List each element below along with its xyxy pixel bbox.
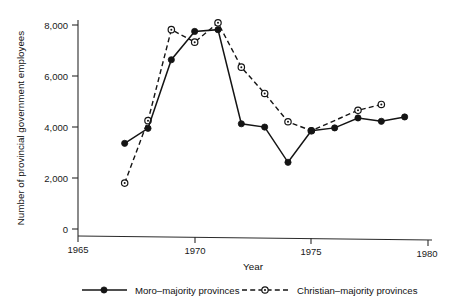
series-christian-majority-provinces [121,20,384,187]
legend-filled-circle-icon [101,287,107,293]
x-tick-label-1975: 1975 [300,246,321,257]
data-point-marker [192,28,198,34]
y-tick-label-0: 0 [63,224,68,235]
y-tick-label-8000: 8,000 [44,20,68,31]
data-point-marker [168,57,174,63]
data-point-marker-center-dot [380,103,382,105]
data-point-marker [238,121,244,127]
x-tick-label-1980: 1980 [416,248,437,259]
chart-legend: Moro–majority provinces Christian–majori… [82,285,418,296]
data-point-marker [402,114,408,120]
data-point-marker [308,128,314,134]
y-tick-label-6000: 6,000 [44,71,68,82]
data-point-marker [262,124,268,130]
data-point-marker-center-dot [357,109,359,111]
legend-label-christian: Christian–majority provinces [297,285,418,296]
chart-figure: 8,000 6,000 4,000 2,000 0 1965 1970 1975… [0,0,450,307]
data-point-marker-center-dot [124,182,126,184]
series-markers-open [121,20,384,187]
x-tick-label-1970: 1970 [184,245,205,256]
y-tick-label-2000: 2,000 [44,173,68,184]
y-axis-ticks [72,25,78,229]
data-point-marker [378,118,384,124]
series-line-dashed [125,23,382,183]
x-axis-tick-labels: 1965 1970 1975 1980 [67,244,437,259]
data-point-marker [145,125,151,131]
x-axis-line [78,236,432,240]
y-axis-tick-labels: 8,000 6,000 4,000 2,000 0 [44,20,68,235]
legend-label-moro: Moro–majority provinces [135,285,240,296]
y-tick-label-4000: 4,000 [44,122,68,133]
data-point-marker [215,27,221,33]
x-axis-title: Year [243,261,264,272]
data-point-marker-center-dot [170,29,172,31]
data-point-marker-center-dot [287,121,289,123]
y-axis-title: Number of provincial government employee… [15,31,26,225]
legend-item-christian-majority-provinces[interactable]: Christian–majority provinces [242,285,418,296]
data-point-marker [122,140,128,146]
legend-item-moro-majority-provinces[interactable]: Moro–majority provinces [82,285,240,296]
data-point-marker [332,125,338,131]
data-point-marker-center-dot [147,120,149,122]
legend-open-circle-center-dot-icon [264,289,266,291]
x-tick-label-1965: 1965 [67,244,88,255]
data-point-marker-center-dot [264,92,266,94]
data-point-marker-center-dot [240,66,242,68]
chart-canvas: 8,000 6,000 4,000 2,000 0 1965 1970 1975… [0,0,450,307]
data-point-marker-center-dot [217,22,219,24]
data-point-marker [285,159,291,165]
data-point-marker-center-dot [194,41,196,43]
data-point-marker [355,115,361,121]
